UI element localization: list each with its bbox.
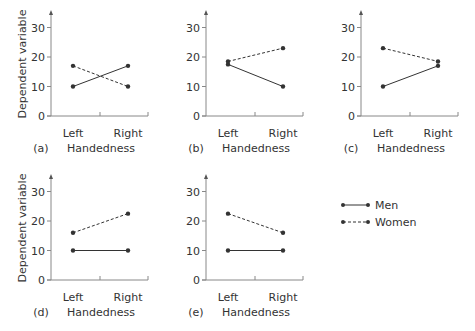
y-tick-label: 30 [31, 22, 45, 35]
x-category-label: Left [218, 127, 239, 140]
x-category-label: Left [218, 291, 239, 304]
data-point-marker [126, 248, 130, 252]
data-point-marker [126, 64, 130, 68]
data-point-marker [226, 211, 230, 215]
series-line [73, 66, 128, 87]
panel-label: (c) [344, 142, 359, 155]
x-axis-title: Handedness [67, 306, 135, 319]
y-axis-arrow-icon [204, 174, 208, 179]
panel-c: 0102030LeftRight(c)Handedness [341, 10, 458, 155]
data-point-marker [126, 211, 130, 215]
series-women [71, 211, 130, 235]
series-men [226, 62, 285, 89]
data-point-marker [281, 84, 285, 88]
y-axis-arrow-icon [49, 10, 53, 15]
x-axis-title: Handedness [377, 142, 445, 155]
y-tick-label: 10 [341, 81, 355, 94]
panel-a: 0102030LeftRight(a)HandednessDependent v… [16, 9, 148, 155]
y-axis-arrow-icon [359, 10, 363, 15]
data-point-marker [226, 59, 230, 63]
data-point-marker [436, 59, 440, 63]
legend-marker [366, 220, 370, 224]
y-axis-title: Dependent variable [16, 173, 29, 282]
y-tick-label: 20 [31, 215, 45, 228]
legend-label: Men [375, 199, 398, 212]
series-women [381, 46, 440, 64]
data-point-marker [126, 84, 130, 88]
y-axis-arrow-icon [49, 174, 53, 179]
series-line [73, 214, 128, 233]
data-point-marker [281, 46, 285, 50]
legend-label: Women [375, 216, 416, 229]
data-point-marker [71, 231, 75, 235]
x-category-label: Right [269, 291, 299, 304]
data-point-marker [71, 64, 75, 68]
legend: MenWomen [341, 199, 416, 229]
panel-label: (b) [188, 142, 204, 155]
y-axis-arrow-icon [204, 10, 208, 15]
data-point-marker [226, 248, 230, 252]
x-axis-title: Handedness [222, 142, 290, 155]
series-line [383, 48, 438, 61]
legend-marker [366, 203, 370, 207]
data-point-marker [71, 84, 75, 88]
legend-item-men: Men [341, 199, 398, 212]
series-line [383, 66, 438, 87]
y-tick-label: 10 [186, 81, 200, 94]
y-tick-label: 30 [341, 22, 355, 35]
series-line [228, 214, 283, 233]
data-point-marker [281, 248, 285, 252]
series-men [71, 248, 130, 252]
legend-marker [341, 220, 345, 224]
y-tick-label: 30 [186, 186, 200, 199]
y-tick-label: 0 [193, 110, 200, 123]
data-point-marker [381, 84, 385, 88]
y-tick-label: 20 [341, 51, 355, 64]
x-axis-title: Handedness [222, 306, 290, 319]
x-category-label: Right [424, 127, 454, 140]
panel-label: (a) [33, 142, 48, 155]
y-tick-label: 0 [38, 110, 45, 123]
y-tick-label: 10 [186, 245, 200, 258]
y-tick-label: 20 [186, 215, 200, 228]
y-tick-label: 20 [186, 51, 200, 64]
series-men [381, 64, 440, 89]
panel-b: 0102030LeftRight(b)Handedness [186, 10, 303, 155]
series-men [226, 248, 285, 252]
y-axis-title: Dependent variable [16, 9, 29, 118]
y-tick-label: 20 [31, 51, 45, 64]
x-category-label: Right [114, 127, 144, 140]
x-category-label: Left [63, 291, 84, 304]
interaction-plots-figure: 0102030LeftRight(a)HandednessDependent v… [0, 0, 475, 331]
x-category-label: Right [114, 291, 144, 304]
series-line [228, 48, 283, 61]
panel-e: 0102030LeftRight(e)Handedness [186, 174, 303, 319]
x-category-label: Left [373, 127, 394, 140]
legend-marker [341, 203, 345, 207]
series-men [71, 64, 130, 89]
data-point-marker [281, 231, 285, 235]
x-axis-title: Handedness [67, 142, 135, 155]
panel-label: (e) [188, 306, 203, 319]
y-tick-label: 30 [186, 22, 200, 35]
y-tick-label: 10 [31, 245, 45, 258]
y-tick-label: 0 [38, 274, 45, 287]
series-women [226, 211, 285, 235]
data-point-marker [71, 248, 75, 252]
y-tick-label: 0 [348, 110, 355, 123]
data-point-marker [436, 64, 440, 68]
panel-label: (d) [33, 306, 49, 319]
data-point-marker [381, 46, 385, 50]
y-tick-label: 10 [31, 81, 45, 94]
series-line [228, 64, 283, 86]
series-women [226, 46, 285, 64]
y-tick-label: 0 [193, 274, 200, 287]
panel-d: 0102030LeftRight(d)HandednessDependent v… [16, 173, 148, 319]
x-category-label: Left [63, 127, 84, 140]
x-category-label: Right [269, 127, 299, 140]
y-tick-label: 30 [31, 186, 45, 199]
legend-item-women: Women [341, 216, 416, 229]
